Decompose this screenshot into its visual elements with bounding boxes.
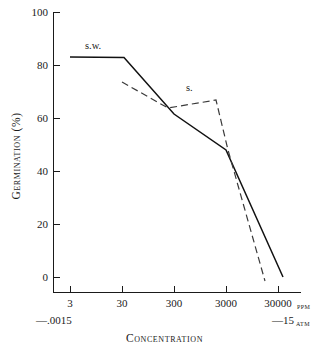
y-tick-label-0: 0 [16,272,48,283]
x-tick-label-300: 300 [166,298,183,309]
scale-note-left: —.0015 [36,314,72,326]
x-tick-label-3000: 3000 [215,298,237,309]
x-tick-label-30: 30 [117,298,128,309]
series-label-sw: s.w. [85,40,101,51]
x-unit-ppm: ppm [297,301,310,311]
scale-note-right: —15 [272,314,294,326]
y-axis-title: Germination (%) [10,56,22,256]
x-tick-label-3: 3 [67,298,73,309]
series-label-s: s. [186,82,193,93]
x-axis-title: Concentration [0,332,329,344]
series-line-s [122,82,265,281]
x-unit-atm: atm [296,318,310,328]
x-tick-label-30000: 30000 [264,298,292,309]
germination-concentration-chart: 100 80 60 40 20 0 3 30 300 3000 30000 pp… [0,0,329,352]
y-tick-label-100: 100 [16,7,48,18]
series-line-sw [70,57,283,277]
